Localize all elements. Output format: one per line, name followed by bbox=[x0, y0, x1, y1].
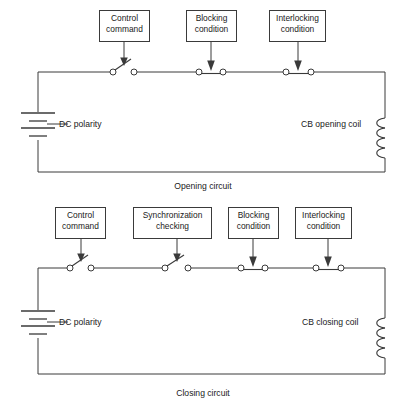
cb-opening-coil-label: CB opening coil bbox=[301, 119, 361, 129]
contact-closed-blocking-condition-closing bbox=[238, 238, 268, 271]
contact-closed-interlocking-condition-closing bbox=[313, 238, 344, 271]
contact-terminal-left bbox=[196, 69, 202, 75]
label-box-blocking-condition-opening: Blocking condition bbox=[186, 10, 237, 42]
actuator-arrow-head bbox=[324, 257, 332, 268]
label-line-1: Interlocking bbox=[296, 210, 351, 221]
label-box-synchronization-checking-closing: Synchronization checking bbox=[133, 207, 212, 239]
contact-terminal-right bbox=[88, 265, 94, 271]
label-line-1: Synchronization bbox=[134, 210, 211, 221]
label-line-1: Blocking bbox=[229, 210, 278, 221]
circuit-schematic-canvas bbox=[0, 0, 406, 410]
label-line-2: condition bbox=[187, 24, 236, 35]
contact-terminal-right bbox=[131, 69, 137, 75]
cb-opening-coil-symbol bbox=[377, 118, 385, 158]
label-box-blocking-condition-closing: Blocking condition bbox=[228, 207, 279, 239]
label-line-2: condition bbox=[270, 24, 325, 35]
contact-terminal-right bbox=[338, 265, 344, 271]
coil-loop-2 bbox=[377, 328, 385, 338]
contact-closed-blocking-condition-opening bbox=[196, 42, 226, 75]
contact-open-synchronization-checking-closing bbox=[162, 238, 191, 271]
dc-polarity-label-closing: DC polarity bbox=[59, 317, 102, 327]
contact-terminal-right bbox=[220, 69, 226, 75]
label-line-2: condition bbox=[296, 221, 351, 232]
label-line-2: checking bbox=[134, 221, 211, 232]
label-box-control-command-opening: Control command bbox=[99, 10, 150, 42]
label-line-1: Control bbox=[100, 13, 149, 24]
label-line-2: command bbox=[100, 24, 149, 35]
coil-loop-4 bbox=[377, 348, 385, 358]
contact-terminal-right bbox=[185, 265, 191, 271]
contact-open-control-command-closing bbox=[67, 238, 94, 271]
label-box-interlocking-condition-opening: Interlocking condition bbox=[269, 10, 326, 42]
label-line-2: condition bbox=[229, 221, 278, 232]
contact-closed-interlocking-condition-opening bbox=[283, 42, 314, 75]
caption-opening-circuit: Opening circuit bbox=[0, 181, 406, 191]
circuit-diagram: Control command Blocking condition Inter… bbox=[0, 0, 406, 410]
coil-loop-1 bbox=[377, 118, 385, 128]
actuator-arrow-head bbox=[249, 257, 257, 268]
contact-terminal-right bbox=[308, 69, 314, 75]
cb-closing-coil-label: CB closing coil bbox=[302, 317, 358, 327]
dc-polarity-label-opening: DC polarity bbox=[59, 119, 102, 129]
coil-loop-3 bbox=[377, 138, 385, 148]
cb-closing-coil-symbol bbox=[377, 318, 385, 358]
label-line-2: command bbox=[56, 221, 105, 232]
contact-terminal-left bbox=[283, 69, 289, 75]
closing-circuit-group bbox=[21, 238, 385, 374]
contact-terminal-left bbox=[238, 265, 244, 271]
label-box-interlocking-condition-closing: Interlocking condition bbox=[295, 207, 352, 239]
actuator-arrow-head bbox=[294, 61, 302, 72]
contact-terminal-right bbox=[262, 265, 268, 271]
opening-circuit-group bbox=[21, 42, 385, 172]
label-line-1: Control bbox=[56, 210, 105, 221]
coil-loop-3 bbox=[377, 338, 385, 348]
contact-terminal-left bbox=[313, 265, 319, 271]
contact-open-control-command-opening bbox=[110, 42, 137, 75]
label-line-1: Interlocking bbox=[270, 13, 325, 24]
coil-loop-1 bbox=[377, 318, 385, 328]
coil-loop-4 bbox=[377, 148, 385, 158]
label-box-control-command-closing: Control command bbox=[55, 207, 106, 239]
coil-loop-2 bbox=[377, 128, 385, 138]
actuator-arrow-head bbox=[207, 61, 215, 72]
caption-closing-circuit: Closing circuit bbox=[0, 388, 406, 398]
label-line-1: Blocking bbox=[187, 13, 236, 24]
